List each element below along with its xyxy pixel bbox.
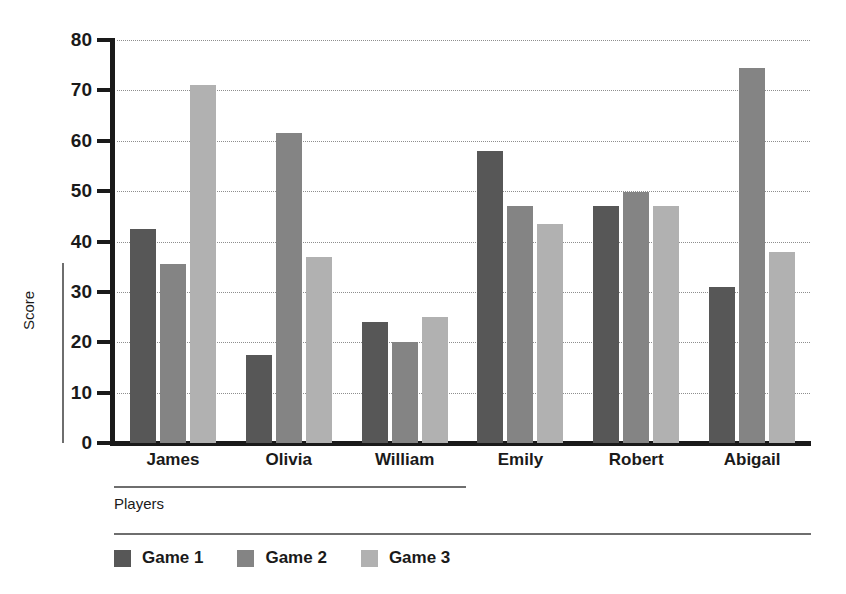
legend-item[interactable]: Game 3 [361, 548, 450, 568]
bar [362, 322, 388, 443]
bar [276, 133, 302, 443]
y-axis-tick-label: 70 [46, 80, 92, 99]
legend-item[interactable]: Game 2 [237, 548, 326, 568]
bar-group [578, 40, 694, 443]
bar [130, 229, 156, 443]
category-label-olivia: Olivia [231, 450, 347, 470]
y-axis-tick [97, 290, 111, 294]
bar [739, 68, 765, 443]
bar-group [347, 40, 463, 443]
y-axis-tick [97, 391, 111, 395]
category-label-william: William [347, 450, 463, 470]
legend-item[interactable]: Game 1 [114, 548, 203, 568]
x-axis-title-rule [114, 486, 466, 488]
bar-group [231, 40, 347, 443]
x-axis-title: Players [114, 495, 164, 512]
bar [246, 355, 272, 443]
bar-group [115, 40, 231, 443]
bar [593, 206, 619, 443]
legend: Game 1Game 2Game 3 [114, 548, 484, 568]
bar [306, 257, 332, 443]
y-axis-tick-label: 10 [46, 383, 92, 402]
bar [477, 151, 503, 443]
bar [507, 206, 533, 443]
bar [160, 264, 186, 443]
legend-swatch-icon [114, 550, 131, 567]
bar [190, 85, 216, 443]
plot-area [115, 40, 810, 443]
bar-group [463, 40, 579, 443]
y-axis-tick-label: 0 [46, 433, 92, 452]
legend-label: Game 1 [142, 548, 203, 568]
category-label-robert: Robert [578, 450, 694, 470]
y-axis-tick-label: 60 [46, 131, 92, 150]
y-axis-tick [97, 139, 111, 143]
category-label-james: James [115, 450, 231, 470]
bar [537, 224, 563, 443]
bar [392, 342, 418, 443]
legend-label: Game 3 [389, 548, 450, 568]
y-axis-tick [97, 38, 111, 42]
y-axis-tick [97, 340, 111, 344]
y-axis-tick [97, 240, 111, 244]
legend-label: Game 2 [265, 548, 326, 568]
y-axis-tick [97, 189, 111, 193]
bar [422, 317, 448, 443]
bar [769, 252, 795, 443]
y-axis-tick [97, 88, 111, 92]
legend-swatch-icon [361, 550, 378, 567]
y-axis-tick-label: 20 [46, 332, 92, 351]
legend-rule [114, 533, 811, 535]
category-label-emily: Emily [463, 450, 579, 470]
y-axis-title: Score [20, 291, 37, 330]
y-axis-tick-label: 30 [46, 282, 92, 301]
bar [709, 287, 735, 443]
legend-swatch-icon [237, 550, 254, 567]
bar-chart: 80706050403020100 JamesOliviaWilliamEmil… [0, 0, 846, 594]
y-axis-tick-label: 40 [46, 232, 92, 251]
y-axis-tick [97, 441, 111, 445]
y-axis-title-rule [62, 263, 64, 443]
y-axis-tick-label: 80 [46, 30, 92, 49]
y-axis-tick-label: 50 [46, 181, 92, 200]
bar-group [694, 40, 810, 443]
bar [653, 206, 679, 443]
bar [623, 192, 649, 443]
category-label-abigail: Abigail [694, 450, 810, 470]
